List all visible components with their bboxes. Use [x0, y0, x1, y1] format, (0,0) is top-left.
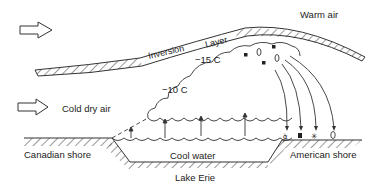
upward-flux-arrows — [129, 113, 247, 138]
fall-trajectories — [275, 56, 334, 128]
precip-particles — [244, 45, 279, 65]
graupel-icon — [298, 133, 302, 138]
diagram-graphics: ὰ ✳ — [0, 0, 385, 190]
lake-erie-label: Lake Erie — [175, 173, 215, 183]
temp-minus15-label: −15 C — [195, 55, 221, 65]
cool-water-label: Cool water — [170, 151, 215, 161]
fall-arrowheads — [285, 126, 336, 131]
american-shore-label: American shore — [290, 150, 357, 160]
canadian-shore-ground — [24, 138, 112, 146]
cold-dry-air-label: Cold dry air — [62, 104, 111, 114]
inversion-layer — [35, 27, 365, 76]
american-shore-ground — [282, 140, 362, 148]
wind-arrow-bottom-icon — [18, 99, 48, 115]
wind-arrow-top-icon — [20, 22, 52, 38]
warm-air-label: Warm air — [300, 10, 338, 20]
canadian-shore-label: Canadian shore — [24, 150, 91, 160]
temp-minus10-label: −10 C — [162, 85, 188, 95]
lake-effect-snow-diagram: ὰ ✳ Warm air Inversion Layer −15 C −10 C… — [0, 0, 385, 190]
ice-pellet-icon — [331, 132, 335, 139]
lake-surface-waves — [112, 138, 292, 141]
